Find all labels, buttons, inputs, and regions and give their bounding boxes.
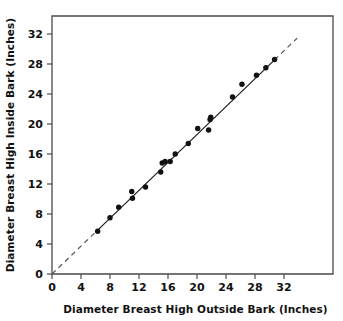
x-tick-label: 12 bbox=[131, 281, 146, 294]
x-tick-label: 20 bbox=[189, 281, 205, 294]
data-point bbox=[206, 127, 211, 132]
y-tick-label: 24 bbox=[28, 88, 44, 101]
data-point bbox=[254, 73, 259, 78]
y-tick-label: 32 bbox=[28, 28, 43, 41]
x-tick-label: 32 bbox=[276, 281, 291, 294]
x-tick-label: 24 bbox=[218, 281, 234, 294]
y-tick-label: 28 bbox=[28, 58, 43, 71]
data-point bbox=[186, 141, 191, 146]
data-point bbox=[129, 189, 134, 194]
data-point bbox=[130, 196, 135, 201]
y-axis: 048121620242832 bbox=[28, 28, 52, 281]
data-point bbox=[162, 159, 167, 164]
x-tick-label: 8 bbox=[106, 281, 114, 294]
data-point bbox=[158, 169, 163, 174]
regression-line-dashed-upper bbox=[275, 38, 297, 60]
data-point bbox=[195, 126, 200, 131]
y-tick-label: 16 bbox=[28, 148, 44, 161]
x-axis: 048121620242832 bbox=[48, 274, 291, 294]
x-axis-title: Diameter Breast High Outside Bark (Inche… bbox=[63, 303, 328, 315]
plot-border bbox=[52, 16, 333, 274]
data-point bbox=[230, 94, 235, 99]
y-axis-title: Diameter Breast High Inside Bark (Inches… bbox=[4, 18, 16, 272]
y-tick-label: 8 bbox=[35, 208, 43, 221]
x-tick-label: 28 bbox=[247, 281, 262, 294]
data-point bbox=[208, 115, 213, 120]
data-point bbox=[167, 159, 172, 164]
y-tick-label: 12 bbox=[28, 178, 43, 191]
x-tick-label: 16 bbox=[160, 281, 176, 294]
data-point bbox=[173, 151, 178, 156]
plot-canvas: 048121620242832048121620242832Diameter B… bbox=[0, 0, 343, 321]
data-point bbox=[263, 65, 268, 70]
data-point bbox=[107, 215, 112, 220]
data-point bbox=[272, 57, 277, 62]
data-point bbox=[239, 82, 244, 87]
y-tick-label: 0 bbox=[35, 268, 43, 281]
y-tick-label: 20 bbox=[28, 118, 44, 131]
data-point bbox=[116, 205, 121, 210]
x-tick-label: 0 bbox=[48, 281, 56, 294]
y-tick-label: 4 bbox=[35, 238, 43, 251]
regression-line-dashed-lower bbox=[52, 230, 98, 274]
x-tick-label: 4 bbox=[77, 281, 85, 294]
data-point bbox=[143, 184, 148, 189]
plot-frame bbox=[52, 16, 333, 274]
data-point bbox=[95, 229, 100, 234]
scatter-chart-figure: 048121620242832048121620242832Diameter B… bbox=[0, 0, 343, 321]
